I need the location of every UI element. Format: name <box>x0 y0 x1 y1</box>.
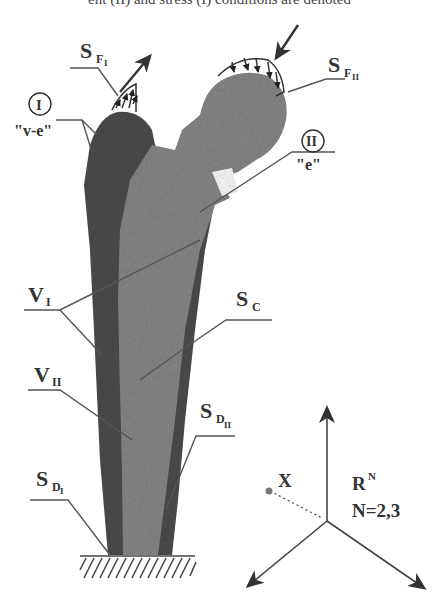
label-v2: V II <box>34 362 62 389</box>
svg-text:F: F <box>344 66 351 80</box>
label-sd1: S D I <box>36 466 64 496</box>
svg-text:V: V <box>34 362 50 387</box>
label-v1: V I <box>28 282 51 309</box>
svg-text:II: II <box>224 420 232 430</box>
svg-text:"v-e": "v-e" <box>14 122 52 139</box>
svg-text:S: S <box>200 398 212 423</box>
load-sf1 <box>112 56 150 112</box>
svg-text:N=2,3: N=2,3 <box>352 500 400 521</box>
label-sd2: S D II <box>200 398 232 430</box>
svg-text:S: S <box>328 52 340 77</box>
svg-text:V: V <box>28 282 44 307</box>
svg-text:N: N <box>368 470 376 482</box>
svg-text:R: R <box>352 473 366 494</box>
svg-text:I: I <box>46 295 51 309</box>
label-space: R N N=2,3 <box>352 470 400 521</box>
svg-text:I: I <box>60 486 64 496</box>
point-x-marker <box>266 488 273 495</box>
svg-text:II: II <box>352 72 360 82</box>
fixed-support-hatch <box>80 556 196 578</box>
label-sf1: S F I <box>80 38 108 68</box>
label-region1: I "v-e" <box>14 93 52 139</box>
label-sf2: S F II <box>328 52 360 82</box>
svg-text:II: II <box>52 375 62 389</box>
label-sc: S C <box>236 286 261 314</box>
label-point-x: X <box>278 470 292 491</box>
svg-text:S: S <box>236 286 248 311</box>
svg-text:II: II <box>306 134 317 149</box>
svg-text:F: F <box>96 52 103 66</box>
svg-text:"e": "e" <box>296 156 321 173</box>
svg-text:S: S <box>80 38 92 63</box>
svg-text:C: C <box>252 300 261 314</box>
coordinate-axes <box>248 408 424 588</box>
svg-text:S: S <box>36 466 48 491</box>
svg-text:I: I <box>36 97 42 113</box>
femur-diagram: S F I I "v-e" S F II II "e" V I S C V II… <box>0 0 439 605</box>
svg-text:I: I <box>104 58 108 68</box>
